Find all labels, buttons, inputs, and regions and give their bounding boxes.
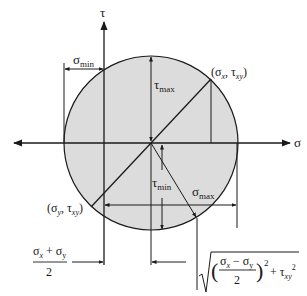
svg-text:σx + σy: σx + σy xyxy=(33,244,66,260)
sigma-axis-label: σ xyxy=(294,135,301,150)
point-x-label: (σx, τxy) xyxy=(211,65,247,81)
svg-text:+ τxy2: + τxy2 xyxy=(270,263,296,281)
sigma-min-label: σmin xyxy=(73,52,95,69)
point-y-label: (σy, τxy) xyxy=(47,201,83,217)
svg-text:): ) xyxy=(256,258,263,283)
radius-formula: ( σx − σy 2 ) 2 + τxy2 xyxy=(199,252,299,292)
mohrs-circle-diagram: σ τ σmin τmax τmin σmax (σx, τxy) (σy, τ… xyxy=(0,0,307,296)
svg-text:σx − σy: σx − σy xyxy=(220,254,253,270)
tau-axis-label: τ xyxy=(100,5,105,20)
svg-text:2: 2 xyxy=(234,273,240,287)
svg-text:2: 2 xyxy=(46,265,52,279)
center-formula: σx + σy 2 xyxy=(33,244,67,279)
svg-text:(: ( xyxy=(211,258,218,283)
svg-text:2: 2 xyxy=(264,258,269,268)
